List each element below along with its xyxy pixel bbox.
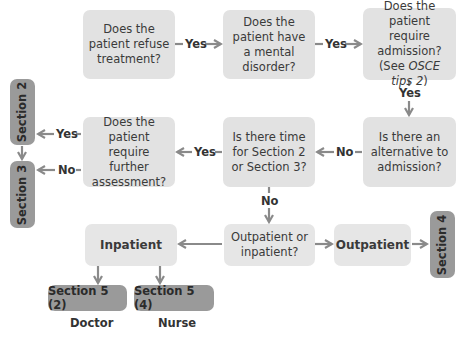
node-label: Section 5 (4) (134, 284, 214, 312)
node-text-line: Does the (233, 15, 306, 30)
node-text-line: alternative to (371, 145, 448, 160)
node-text-line: Is there time (231, 130, 306, 145)
edge-label-yes: Yes (194, 145, 216, 159)
node-further-assessment: Does the patient require further assessm… (83, 117, 175, 187)
node-refuse-treatment: Does the patient refuse treatment? (83, 10, 175, 79)
node-label: Section 2 (16, 82, 30, 142)
node-text-line: require further (87, 145, 171, 175)
node-label: Section 5 (2) (48, 284, 127, 312)
node-require-admission: Does the patient require admission? (See… (363, 8, 456, 80)
caption-nurse: Nurse (158, 316, 196, 330)
node-section-5-2: Section 5 (2) (48, 285, 127, 311)
node-text-line: Does the (367, 0, 452, 14)
edge-label-no: No (336, 145, 354, 159)
node-text-line: inpatient? (231, 245, 308, 260)
node-alternative-to-admission: Is there an alternative to admission? (363, 117, 456, 187)
node-text-line: patient refuse (89, 37, 170, 52)
node-text-line: Is there an (371, 130, 448, 145)
node-inpatient: Inpatient (85, 224, 177, 266)
node-text-line: assessment? (87, 175, 171, 190)
node-section-3: Section 3 (10, 161, 35, 228)
node-text-line: treatment? (89, 52, 170, 67)
node-text-line: patient require (367, 14, 452, 44)
node-text-line: a mental (233, 45, 306, 60)
node-text-line: Does the (89, 22, 170, 37)
node-text-line: admission? (367, 44, 452, 59)
node-label: Outpatient (336, 238, 409, 253)
node-section-4: Section 4 (430, 211, 455, 278)
note-prefix: (See (379, 59, 409, 73)
edge-label-yes: Yes (399, 86, 421, 100)
node-text-line: disorder? (233, 60, 306, 75)
edge-label-no: No (261, 194, 279, 208)
osce-note: (See OSCE tips 2) (367, 59, 452, 89)
node-label: Section 4 (436, 214, 450, 274)
node-section-5-4: Section 5 (4) (134, 285, 214, 311)
node-mental-disorder: Does the patient have a mental disorder? (223, 10, 315, 79)
node-label: Inpatient (100, 238, 162, 253)
node-text-line: admission? (371, 160, 448, 175)
node-text-line: patient (87, 130, 171, 145)
node-time-for-section: Is there time for Section 2 or Section 3… (223, 117, 315, 187)
edge-label-no: No (58, 163, 76, 177)
caption-doctor: Doctor (70, 316, 113, 330)
edge-label-yes: Yes (325, 37, 347, 51)
node-text-line: Outpatient or (231, 230, 308, 245)
note-suffix: ) (423, 74, 428, 88)
node-outpatient-or-inpatient: Outpatient or inpatient? (224, 224, 315, 266)
node-text-line: patient have (233, 30, 306, 45)
edge-label-yes: Yes (56, 127, 78, 141)
node-section-2: Section 2 (10, 79, 35, 145)
edge-label-yes: Yes (185, 37, 207, 51)
node-text-line: or Section 3? (231, 160, 306, 175)
node-text-line: for Section 2 (231, 145, 306, 160)
node-label: Section 3 (16, 164, 30, 224)
node-outpatient: Outpatient (334, 224, 411, 266)
node-text-line: Does the (87, 115, 171, 130)
